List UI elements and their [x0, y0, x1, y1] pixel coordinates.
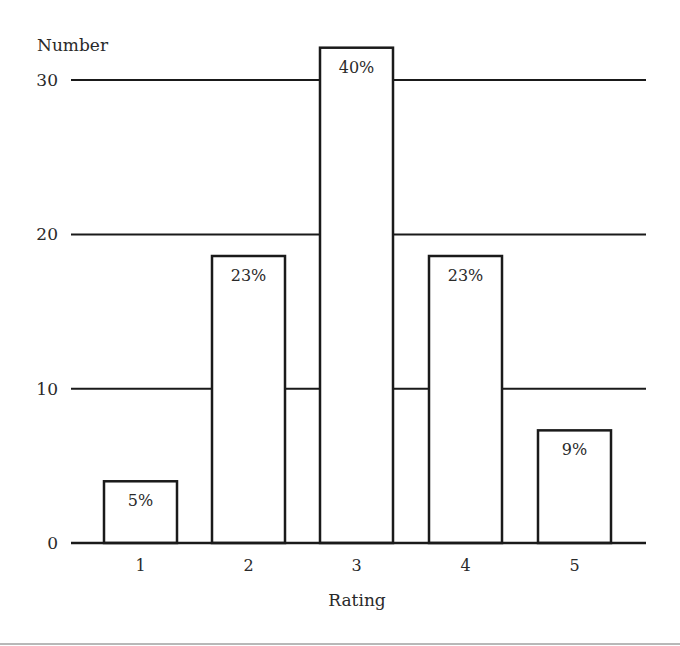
- bar-chart: Number01020305%123%240%323%49%5Rating: [0, 0, 680, 646]
- x-axis-title: Rating: [328, 590, 386, 610]
- bar-2: [212, 256, 285, 543]
- x-tick-label: 3: [351, 556, 361, 575]
- bar-percent-label: 23%: [231, 266, 267, 285]
- y-axis-title: Number: [37, 35, 109, 55]
- y-tick-label: 10: [36, 379, 58, 399]
- y-tick-label: 30: [36, 70, 58, 90]
- bar-percent-label: 5%: [128, 491, 153, 510]
- y-tick-label: 20: [36, 224, 58, 244]
- x-tick-label: 2: [243, 556, 253, 575]
- x-tick-label: 4: [460, 556, 470, 575]
- y-tick-label: 0: [47, 533, 58, 553]
- bottom-divider: [0, 643, 680, 645]
- bar-percent-label: 23%: [448, 266, 484, 285]
- bar-percent-label: 40%: [339, 58, 375, 77]
- x-tick-label: 1: [135, 556, 145, 575]
- x-tick-label: 5: [569, 556, 579, 575]
- bar-3: [320, 48, 393, 543]
- bar-percent-label: 9%: [562, 440, 587, 459]
- bar-4: [429, 256, 502, 543]
